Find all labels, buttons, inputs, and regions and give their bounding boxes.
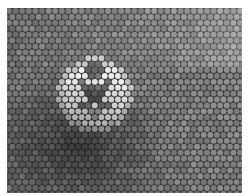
micrograph-image (7, 8, 242, 193)
particle-lattice (7, 8, 242, 193)
